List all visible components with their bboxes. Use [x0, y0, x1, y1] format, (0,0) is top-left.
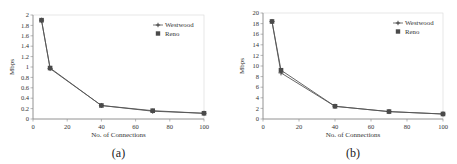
legend-square-icon	[156, 31, 160, 35]
y-tick-label: 20	[253, 9, 260, 16]
y-tick-label: 12	[253, 52, 260, 59]
y-tick-label: 16	[253, 30, 260, 37]
y-tick-label: 10	[253, 62, 260, 69]
x-tick-label: 20	[296, 123, 303, 130]
y-tick-label: 0.2	[21, 105, 29, 112]
x-tick-label: 40	[98, 123, 105, 130]
figure-caption: (b)	[346, 146, 360, 160]
marker-square	[48, 66, 53, 71]
chart-b-svg: 02468101214161820020406080100No. of Conn…	[228, 0, 457, 164]
legend-label: Reno	[405, 28, 420, 35]
x-tick-label: 100	[199, 123, 209, 130]
figure-caption: (a)	[112, 146, 125, 160]
legend-label: Westwood	[165, 21, 194, 28]
legend: WestwoodReno	[393, 19, 434, 35]
y-tick-label: 1.4	[21, 42, 30, 49]
y-tick-label: 0.4	[21, 94, 30, 101]
y-tick-label: 1	[26, 63, 29, 70]
marker-square	[99, 103, 104, 108]
legend-label: Westwood	[405, 19, 434, 26]
chart-a-svg: 00.20.40.60.811.21.41.61.82020406080100N…	[0, 0, 228, 164]
legend-plus-icon	[156, 23, 160, 27]
y-tick-label: 2	[256, 105, 259, 112]
x-tick-label: 60	[132, 123, 139, 130]
x-tick-label: 20	[64, 123, 71, 130]
y-tick-label: 1.8	[21, 22, 29, 29]
y-tick-label: 0	[256, 115, 259, 122]
marker-square	[279, 68, 284, 73]
x-tick-label: 0	[31, 123, 34, 130]
y-tick-label: 18	[253, 20, 260, 27]
x-tick-label: 80	[167, 123, 174, 130]
x-tick-label: 0	[261, 123, 264, 130]
x-axis-label: No. of Connections	[326, 131, 381, 139]
x-axis-label: No. of Connections	[91, 131, 146, 139]
series-line-reno	[272, 22, 443, 115]
x-tick-label: 80	[404, 123, 411, 130]
y-tick-label: 8	[256, 73, 259, 80]
series-line-reno	[42, 20, 205, 113]
legend: WestwoodReno	[153, 21, 194, 37]
y-tick-label: 1.6	[21, 32, 30, 39]
marker-square	[270, 19, 275, 24]
marker-square	[150, 108, 155, 113]
y-axis-label: Mbps	[238, 58, 246, 74]
marker-square	[39, 18, 44, 23]
y-tick-label: 4	[256, 94, 260, 101]
series-line-westwood	[42, 20, 205, 113]
legend-label: Reno	[165, 30, 180, 37]
chart-panel-a: 00.20.40.60.811.21.41.61.82020406080100N…	[0, 0, 228, 164]
x-tick-label: 60	[368, 123, 375, 130]
legend-plus-icon	[396, 21, 400, 25]
legend-square-icon	[396, 29, 400, 33]
x-tick-label: 100	[438, 123, 448, 130]
x-tick-label: 40	[332, 123, 339, 130]
y-axis-label: Mbps	[8, 59, 16, 75]
marker-square	[387, 109, 392, 114]
y-tick-label: 14	[253, 41, 260, 48]
y-tick-label: 0.6	[21, 84, 30, 91]
marker-square	[202, 111, 207, 116]
y-tick-label: 0.8	[21, 74, 29, 81]
series-line-westwood	[272, 22, 443, 115]
y-tick-label: 6	[256, 83, 260, 90]
y-tick-label: 0	[26, 115, 29, 122]
marker-square	[441, 112, 446, 117]
chart-panel-b: 02468101214161820020406080100No. of Conn…	[228, 0, 456, 164]
y-tick-label: 2	[26, 11, 29, 18]
marker-square	[333, 104, 338, 109]
y-tick-label: 1.2	[21, 53, 29, 60]
